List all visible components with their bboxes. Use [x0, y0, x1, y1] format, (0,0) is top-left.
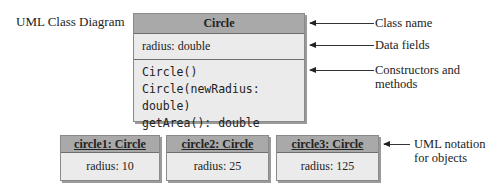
arrow-class-name-icon	[310, 23, 374, 24]
label-objects-line1: UML notation	[414, 137, 485, 151]
field-radius: radius: double	[142, 39, 210, 53]
arrow-data-fields-icon	[310, 45, 374, 46]
label-constructors: Constructors and methods	[375, 63, 460, 91]
object-box-circle2: circle2: Circle radius: 25	[166, 135, 269, 181]
object-value: radius: 125	[277, 153, 378, 180]
label-objects: UML notation for objects	[414, 137, 485, 165]
label-constructors-line2: methods	[375, 77, 460, 91]
object-box-circle1: circle1: Circle radius: 10	[60, 135, 160, 181]
class-box-circle: Circle radius: double Circle() Circle(ne…	[133, 13, 305, 122]
class-methods: Circle() Circle(newRadius: double) getAr…	[134, 60, 304, 132]
label-objects-line2: for objects	[414, 151, 485, 165]
object-name: circle2: Circle	[167, 136, 268, 153]
arrow-constructors-icon	[310, 70, 374, 71]
label-class-name: Class name	[375, 16, 432, 30]
object-name: circle1: Circle	[61, 136, 159, 153]
object-box-circle3: circle3: Circle radius: 125	[276, 135, 379, 181]
object-name: circle3: Circle	[277, 136, 378, 153]
class-name: Circle	[134, 14, 304, 34]
method-get-area: getArea(): double	[142, 115, 304, 132]
label-constructors-line1: Constructors and	[375, 63, 460, 77]
method-constructor-default: Circle()	[142, 64, 304, 81]
class-fields: radius: double	[134, 34, 304, 60]
label-data-fields: Data fields	[375, 38, 430, 52]
object-value: radius: 25	[167, 153, 268, 180]
arrow-objects-icon	[384, 144, 410, 145]
object-value: radius: 10	[61, 153, 159, 180]
diagram-title: UML Class Diagram	[16, 14, 125, 30]
method-constructor-radius: Circle(newRadius: double)	[142, 81, 304, 115]
